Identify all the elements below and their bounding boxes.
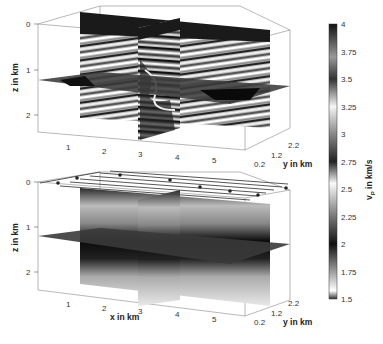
bottom-y-tick-1: 1.2 — [271, 309, 283, 318]
bottom-x-tick-4: 4 — [175, 310, 180, 319]
bottom-z-tick-1: 1 — [26, 223, 31, 232]
top-x-tick-3: 3 — [138, 150, 143, 159]
colorbar-tick-4: 4 — [341, 20, 346, 29]
top-plot: 0 1 2 z in km 1 2 3 4 5 0.2 1.2 2.2 y in… — [10, 6, 313, 169]
top-x-tick-1: 1 — [66, 143, 71, 152]
colorbar-tick-1.5: 1.5 — [341, 295, 353, 304]
bottom-plot: 0 1 2 z in km 1 2 3 4 5 x in km 0.2 1.2 … — [10, 171, 313, 327]
bottom-z-axis-label: z in km — [10, 223, 20, 252]
top-z-tick-2: 2 — [26, 111, 31, 120]
bottom-y-tick-0: 0.2 — [254, 318, 266, 327]
colorbar: 4 3.75 3.5 3.25 3 2.75 2.5 2.25 2 1.75 1… — [329, 20, 376, 304]
top-y-axis-label: y in km — [283, 159, 313, 169]
bottom-x-tick-5: 5 — [212, 315, 217, 324]
top-z-tick-1: 1 — [26, 66, 31, 75]
colorbar-tick-1.75: 1.75 — [341, 268, 357, 277]
bottom-z-tick-0: 0 — [26, 178, 31, 187]
top-x-tick-5: 5 — [212, 156, 217, 165]
colorbar-tick-2.25: 2.25 — [341, 213, 357, 222]
bottom-x-tick-2: 2 — [102, 304, 107, 313]
colorbar-tick-2: 2 — [341, 240, 346, 249]
top-z-axis-label: z in km — [10, 63, 20, 92]
top-y-tick-1: 1.2 — [271, 151, 283, 160]
top-z-tick-0: 0 — [26, 20, 31, 29]
colorbar-gradient — [329, 24, 337, 299]
colorbar-tick-3: 3 — [341, 130, 346, 139]
colorbar-label: vP in km/s — [364, 159, 376, 200]
bottom-x-axis-label: x in km — [110, 312, 140, 322]
top-y-tick-0: 0.2 — [254, 160, 266, 169]
bottom-x-tick-1: 1 — [66, 300, 71, 309]
bottom-y-tick-2: 2.2 — [288, 299, 300, 308]
bottom-y-axis-label: y in km — [283, 317, 313, 327]
top-x-tick-4: 4 — [175, 153, 180, 162]
colorbar-tick-2.5: 2.5 — [341, 185, 353, 194]
colorbar-tick-3.75: 3.75 — [341, 48, 357, 57]
top-y-tick-2: 2.2 — [288, 141, 300, 150]
colorbar-tick-2.75: 2.75 — [341, 158, 357, 167]
colorbar-tick-3.5: 3.5 — [341, 75, 353, 84]
bottom-z-tick-2: 2 — [26, 268, 31, 277]
top-x-tick-2: 2 — [102, 147, 107, 156]
colorbar-tick-3.25: 3.25 — [341, 103, 357, 112]
